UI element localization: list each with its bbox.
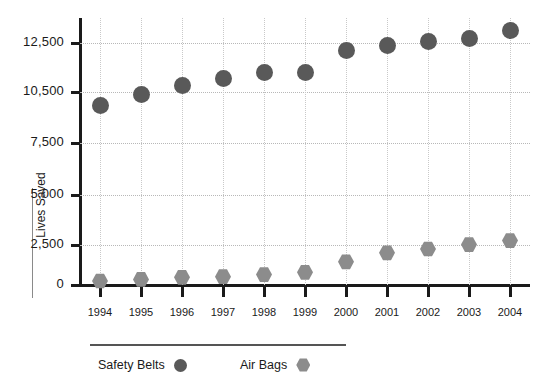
y-tick-label: 10,500 <box>0 83 64 98</box>
data-point-safety-belts[interactable] <box>256 64 273 81</box>
x-tick-mark <box>386 287 389 297</box>
data-point-safety-belts[interactable] <box>215 70 232 87</box>
x-tick-mark <box>304 287 307 297</box>
x-tick-mark <box>99 287 102 297</box>
data-point-safety-belts[interactable] <box>379 37 396 54</box>
x-tick-label: 2004 <box>490 306 530 318</box>
legend-divider <box>90 344 346 346</box>
data-point-safety-belts[interactable] <box>461 30 478 47</box>
x-tick-mark <box>427 287 430 297</box>
legend-swatch-air-bags <box>296 358 310 372</box>
x-tick-label: 1996 <box>162 306 202 318</box>
data-point-safety-belts[interactable] <box>133 86 150 103</box>
x-tick-label: 1994 <box>80 306 120 318</box>
x-tick-label: 2002 <box>408 306 448 318</box>
x-tick-mark <box>140 287 143 297</box>
x-gridline <box>141 18 142 285</box>
x-gridline <box>305 18 306 285</box>
y-tick-mark <box>71 142 80 145</box>
y-tick-label: 5,000 <box>0 186 64 201</box>
legend-item-safety-belts[interactable]: Safety Belts <box>98 354 187 376</box>
x-tick-mark <box>345 287 348 297</box>
y-tick-mark <box>71 194 80 197</box>
x-tick-label: 1999 <box>285 306 325 318</box>
data-point-safety-belts[interactable] <box>174 77 191 94</box>
x-gridline <box>100 18 101 285</box>
legend-swatch-safety-belts <box>174 359 187 372</box>
x-tick-label: 2001 <box>367 306 407 318</box>
legend-label-air-bags: Air Bags <box>240 358 287 372</box>
y-tick-label: 2,500 <box>0 236 64 251</box>
x-tick-label: 1997 <box>203 306 243 318</box>
y-tick-mark <box>71 244 80 247</box>
legend-label-safety-belts: Safety Belts <box>98 358 165 372</box>
y-tick-mark <box>71 42 80 45</box>
x-gridline <box>264 18 265 285</box>
x-tick-mark <box>468 287 471 297</box>
y-tick-label: 12,500 <box>0 34 64 49</box>
data-point-safety-belts[interactable] <box>420 33 437 50</box>
y-tick-label: 0 <box>0 276 64 291</box>
x-tick-label: 2000 <box>326 306 366 318</box>
x-tick-label: 1995 <box>121 306 161 318</box>
data-point-safety-belts[interactable] <box>502 22 519 39</box>
x-tick-mark <box>509 287 512 297</box>
data-point-safety-belts[interactable] <box>338 42 355 59</box>
x-tick-mark <box>181 287 184 297</box>
x-tick-mark <box>222 287 225 297</box>
data-point-safety-belts[interactable] <box>92 97 109 114</box>
x-tick-label: 1998 <box>244 306 284 318</box>
x-gridline <box>223 18 224 285</box>
x-tick-label: 2003 <box>449 306 489 318</box>
x-gridline <box>387 18 388 285</box>
y-tick-mark <box>71 91 80 94</box>
chart-container: Lives Saved Safety Belts Air Bags 02,500… <box>0 0 558 391</box>
data-point-safety-belts[interactable] <box>297 64 314 81</box>
chart-legend: Safety Belts Air Bags <box>90 344 350 384</box>
x-gridline <box>182 18 183 285</box>
y-tick-label: 7,500 <box>0 134 64 149</box>
x-tick-mark <box>263 287 266 297</box>
legend-item-air-bags[interactable]: Air Bags <box>240 354 310 376</box>
y-tick-mark <box>71 284 80 287</box>
